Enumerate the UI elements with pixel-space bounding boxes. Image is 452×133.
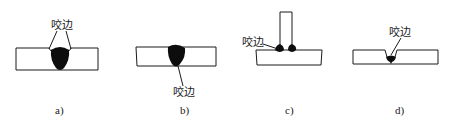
panel-a-weld	[51, 47, 69, 70]
undercut-diagram: 咬边 咬边 咬边 咬边 a) b) c) d)	[0, 0, 452, 133]
panel-d-undercut-label: 咬边	[389, 27, 411, 38]
panel-a-caption: a)	[55, 105, 64, 116]
panel-d-plates	[353, 38, 438, 64]
panel-b-caption: b)	[180, 105, 189, 116]
panel-d-caption: d)	[395, 105, 404, 116]
panel-c-undercut-label: 咬边	[242, 37, 264, 48]
panel-a-undercut-label: 咬边	[51, 20, 73, 31]
panel-c-plates	[256, 12, 322, 65]
panel-b-weld	[168, 45, 185, 67]
panel-c-weld-right	[288, 44, 296, 52]
panel-c-weld-left	[275, 44, 284, 52]
panel-c-caption: c)	[285, 105, 294, 116]
panel-d-weld	[386, 56, 396, 65]
panel-b-undercut-label: 咬边	[173, 87, 195, 98]
